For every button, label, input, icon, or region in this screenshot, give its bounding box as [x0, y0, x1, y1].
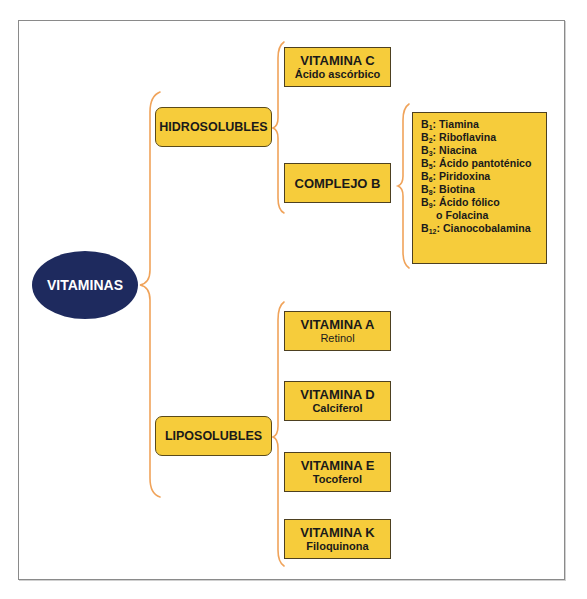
- list-item: B9: Ácido fólico: [421, 196, 546, 209]
- node-title: VITAMINA C: [300, 53, 374, 68]
- node-title: VITAMINA K: [300, 525, 374, 540]
- group-node-hidrosolubles: HIDROSOLUBLES: [155, 107, 272, 147]
- node-subtitle: Retinol: [320, 332, 354, 345]
- node-title: VITAMINA E: [301, 458, 375, 473]
- node-title: VITAMINA D: [300, 387, 374, 402]
- list-item: o Folacina: [421, 209, 546, 222]
- list-item: B2: Riboflavina: [421, 131, 546, 144]
- list-item: B12: Cianocobalamina: [421, 222, 546, 235]
- list-item: B3: Niacina: [421, 144, 546, 157]
- node-vitamina-e: VITAMINA E Tocoferol: [284, 452, 391, 492]
- node-title: VITAMINA A: [301, 317, 375, 332]
- group-label: LIPOSOLUBLES: [165, 429, 262, 443]
- group-node-liposolubles: LIPOSOLUBLES: [155, 416, 272, 456]
- node-subtitle: Calciferol: [312, 402, 362, 415]
- list-item: B5: Ácido pantoténico: [421, 157, 546, 170]
- root-node-vitaminas: VITAMINAS: [32, 251, 138, 319]
- group-label: HIDROSOLUBLES: [159, 120, 267, 134]
- list-item: B1: Tiamina: [421, 118, 546, 131]
- node-vitamina-a: VITAMINA A Retinol: [284, 311, 391, 351]
- root-label: VITAMINAS: [47, 277, 123, 293]
- list-item: B8: Biotina: [421, 183, 546, 196]
- node-vitamina-d: VITAMINA D Calciferol: [284, 381, 391, 421]
- list-item: B6: Piridoxina: [421, 170, 546, 183]
- node-subtitle: Filoquinona: [306, 540, 368, 553]
- node-subtitle: Tocoferol: [313, 473, 362, 486]
- node-complejo-b: COMPLEJO B: [284, 163, 391, 203]
- node-subtitle: Ácido ascórbico: [295, 68, 381, 81]
- node-vitamina-k: VITAMINA K Filoquinona: [284, 519, 391, 559]
- complejo-b-list: B1: Tiamina B2: Riboflavina B3: Niacina …: [412, 112, 547, 264]
- node-vitamina-c: VITAMINA C Ácido ascórbico: [284, 47, 391, 87]
- node-title: COMPLEJO B: [295, 176, 381, 191]
